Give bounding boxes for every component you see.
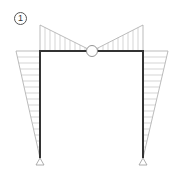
portal-frame (40, 51, 143, 158)
left-pin-support-icon (36, 158, 44, 165)
beam-moment-left-outline (40, 25, 92, 51)
left-column-moment-outline (16, 51, 40, 158)
hinge-circle (87, 46, 98, 57)
portal-frame-diagram (0, 0, 184, 184)
column-moment-diagram (16, 51, 168, 158)
crown-hinge-icon (87, 46, 98, 57)
beam-moment-right-outline (92, 25, 143, 51)
pin-supports (36, 158, 147, 165)
right-pin-support-icon (139, 158, 147, 165)
right-column-moment-outline (143, 51, 168, 158)
frame-members (40, 51, 143, 158)
